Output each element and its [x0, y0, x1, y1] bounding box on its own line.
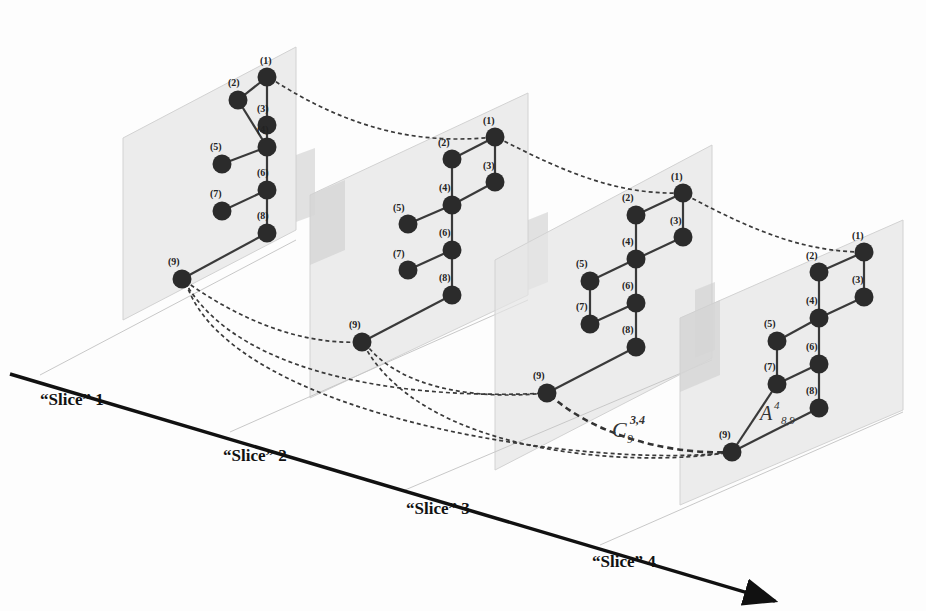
node-label: (4): [439, 182, 451, 194]
node-label: (1): [483, 115, 495, 127]
node-label: (7): [210, 188, 222, 200]
adjacency-symbol: A: [758, 402, 773, 424]
node-label: (4): [257, 124, 269, 136]
node-label: (1): [260, 55, 272, 67]
slice-plane-1: [40, 47, 315, 375]
coupling-superscript: 3,4: [629, 413, 645, 427]
node-label: (8): [439, 272, 451, 284]
node-label: (4): [622, 236, 634, 248]
node-label: (2): [228, 77, 240, 89]
slice-label-1: “Slice” 1: [40, 390, 104, 410]
node-label: (9): [719, 429, 731, 441]
node-label: (4): [806, 295, 818, 307]
node-label: (9): [533, 370, 545, 382]
node-label: (3): [257, 103, 269, 115]
node-label: (6): [622, 280, 634, 292]
slice-label-3: “Slice” 3: [406, 499, 470, 519]
node-label: (6): [257, 167, 269, 179]
node-label: (5): [210, 141, 222, 153]
node-label: (1): [671, 171, 683, 183]
node-label: (8): [622, 324, 634, 336]
node-label: (5): [576, 258, 588, 270]
node-label: (1): [852, 230, 864, 242]
coupling-subscript: 9: [627, 432, 633, 446]
node-label: (2): [806, 250, 818, 262]
node-label: (2): [438, 137, 450, 149]
time-axis-arrow: [10, 374, 775, 601]
node-label: (6): [439, 227, 451, 239]
slice-label-4: “Slice” 4: [592, 552, 656, 572]
diagram-canvas: (1) (2) (3) (4) (5) (6) (7) (8) (9): [0, 0, 926, 611]
node-label: (8): [806, 385, 818, 397]
slice-label-2: “Slice” 2: [223, 446, 287, 466]
adjacency-superscript: 4: [774, 399, 780, 411]
node-label: (5): [764, 318, 776, 330]
node-label: (6): [806, 341, 818, 353]
multi-slice-network-figure: (1) (2) (3) (4) (5) (6) (7) (8) (9): [0, 0, 926, 611]
adjacency-subscript: 8,9: [781, 414, 795, 426]
node-label: (9): [349, 319, 361, 331]
node-label: (8): [257, 210, 269, 222]
node-label: (5): [393, 202, 405, 214]
node-label: (3): [483, 160, 495, 172]
node-label: (7): [764, 361, 776, 373]
node-label: (7): [393, 248, 405, 260]
node-label: (9): [168, 256, 180, 268]
node-label: (7): [576, 301, 588, 313]
node-label: (3): [670, 215, 682, 227]
node-label: (3): [852, 274, 864, 286]
node-label: (2): [622, 192, 634, 204]
coupling-symbol: C: [612, 417, 627, 442]
